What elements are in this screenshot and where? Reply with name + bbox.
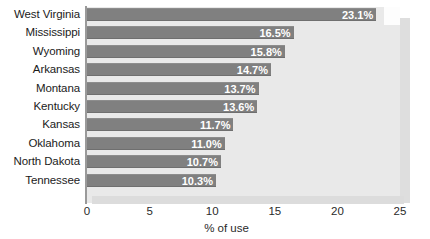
bar-value-label: 13.7% [224,83,255,96]
bar-value-label: 16.5% [259,27,290,40]
bar: 11.7% [87,118,233,131]
category-label: West Virginia [0,8,80,20]
bar: 15.8% [87,45,285,58]
bar: 16.5% [87,26,294,39]
x-tick-label: 25 [394,205,407,217]
bar: 13.6% [87,100,257,113]
bar: 10.7% [87,155,221,168]
x-axis-title-label: % of use [204,222,249,234]
category-label: North Dakota [0,155,80,167]
bar: 23.1% [87,8,376,21]
x-axis-title: % of use [0,222,430,234]
bar-value-label: 15.8% [251,46,282,59]
category-label: Oklahoma [0,137,80,149]
bar-value-label: 10.7% [187,156,218,169]
page-corner-artifact [384,7,400,25]
bar: 14.7% [87,63,271,76]
category-axis-labels: West VirginiaMississippiWyomingArkansasM… [0,8,80,196]
category-label: Kansas [0,118,80,130]
x-tick-label: 0 [84,205,90,217]
category-label: Tennessee [0,174,80,186]
category-label: Arkansas [0,63,80,75]
bar-value-label: 11.7% [200,119,231,132]
category-label: Montana [0,82,80,94]
bar-value-label: 13.6% [223,101,254,114]
plot-shadow-bottom [92,196,404,204]
category-label: Kentucky [0,100,80,112]
bar: 10.3% [87,174,216,187]
category-label: Wyoming [0,45,80,57]
x-tick-label: 15 [268,205,281,217]
x-axis-ticks: 0510152025 [0,205,430,221]
bar: 11.0% [87,137,225,150]
bar-value-label: 10.3% [182,175,213,188]
bar-value-label: 23.1% [342,9,373,22]
bar-chart: West VirginiaMississippiWyomingArkansasM… [0,0,430,239]
bar-value-label: 14.7% [237,64,268,77]
plot-shadow-right [400,18,410,203]
x-tick-label: 10 [206,205,219,217]
x-tick-label: 20 [331,205,344,217]
x-tick-label: 5 [146,205,152,217]
bar: 13.7% [87,82,259,95]
category-label: Mississippi [0,26,80,38]
bar-value-label: 11.0% [191,138,222,151]
